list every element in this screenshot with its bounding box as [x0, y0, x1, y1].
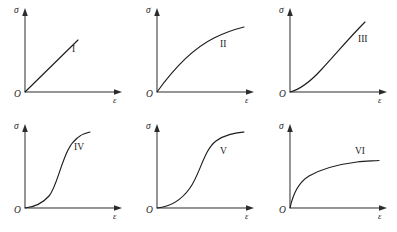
- y-axis-arrow-icon: [155, 124, 161, 132]
- origin-label: O: [146, 89, 153, 99]
- origin-label: O: [279, 205, 286, 215]
- panel-2: σ ε O II: [132, 0, 264, 116]
- origin-label: O: [146, 205, 153, 215]
- panel-roman-label: VI: [355, 146, 365, 156]
- panel-roman-label: I: [72, 44, 75, 54]
- y-axis-arrow-icon: [287, 8, 293, 16]
- curve-line: [25, 40, 78, 92]
- x-axis-arrow-icon: [114, 89, 122, 95]
- curve-line: [157, 27, 244, 92]
- x-axis-label: ε: [245, 95, 249, 105]
- panel-6: σ ε O VI: [265, 116, 397, 232]
- x-axis-arrow-icon: [379, 205, 387, 211]
- y-axis-label: σ: [14, 121, 19, 131]
- x-axis-arrow-icon: [379, 89, 387, 95]
- curve-line: [290, 22, 365, 92]
- x-axis-label: ε: [113, 95, 117, 105]
- y-axis-label: σ: [146, 121, 151, 131]
- origin-label: O: [14, 89, 21, 99]
- curve-line: [290, 161, 379, 208]
- y-axis-label: σ: [146, 5, 151, 15]
- figure-grid: σ ε O I σ ε O II σ ε O I: [0, 0, 397, 232]
- panel-5: σ ε O V: [132, 116, 264, 232]
- panel-roman-label: III: [358, 34, 367, 44]
- x-axis-arrow-icon: [246, 205, 254, 211]
- panel-roman-label: V: [220, 146, 227, 156]
- curve-line: [157, 132, 244, 208]
- x-axis-arrow-icon: [246, 89, 254, 95]
- x-axis-arrow-icon: [114, 205, 122, 211]
- y-axis-label: σ: [279, 121, 284, 131]
- x-axis-label: ε: [245, 211, 249, 221]
- origin-label: O: [14, 205, 21, 215]
- origin-label: O: [279, 89, 286, 99]
- y-axis-arrow-icon: [22, 124, 28, 132]
- panel-4: σ ε O IV: [0, 116, 132, 232]
- panel-1: σ ε O I: [0, 0, 132, 116]
- y-axis-arrow-icon: [287, 124, 293, 132]
- y-axis-label: σ: [279, 5, 284, 15]
- x-axis-label: ε: [113, 211, 117, 221]
- x-axis-label: ε: [378, 211, 382, 221]
- panel-3: σ ε O III: [265, 0, 397, 116]
- y-axis-arrow-icon: [155, 8, 161, 16]
- y-axis-arrow-icon: [22, 8, 28, 16]
- panel-roman-label: IV: [74, 142, 84, 152]
- y-axis-label: σ: [14, 5, 19, 15]
- panel-roman-label: II: [220, 39, 226, 49]
- x-axis-label: ε: [378, 95, 382, 105]
